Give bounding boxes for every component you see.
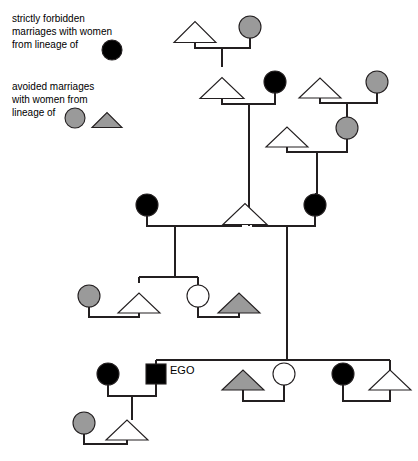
kin-node-triangle-g6-m3[interactable] xyxy=(369,370,411,390)
kin-node-circle-g3-f1[interactable] xyxy=(336,117,358,139)
labels-layer: EGO xyxy=(170,364,195,376)
kin-node-circle-g5-f2[interactable] xyxy=(187,285,209,307)
kin-node-triangle-g2-m1[interactable] xyxy=(200,78,244,99)
kin-node-triangle-g5-m1[interactable] xyxy=(118,293,160,313)
kin-node-triangle-g7-m1[interactable] xyxy=(106,420,148,440)
kin-node-circle-g2-f2[interactable] xyxy=(366,71,388,93)
kinship-diagram: strictly forbiddenmarriages with womenfr… xyxy=(0,0,418,461)
kin-node-circle-g6-f2[interactable] xyxy=(273,363,295,385)
kin-node-triangle-g2-m2[interactable] xyxy=(299,78,341,98)
kin-node-circle-g5-f1[interactable] xyxy=(78,285,100,307)
kinship-svg: strictly forbiddenmarriages with womenfr… xyxy=(0,0,418,461)
legend-symbol-avoided-1[interactable] xyxy=(92,113,122,128)
kin-node-triangle-g5-m2[interactable] xyxy=(218,293,260,313)
kin-node-circle-g2-f1[interactable] xyxy=(264,71,286,93)
kin-node-triangle-g1-m1[interactable] xyxy=(174,22,216,43)
kin-node-triangle-g6-m2[interactable] xyxy=(222,370,264,390)
kin-node-circle-g4-f2[interactable] xyxy=(304,194,326,216)
kin-node-square-g6-ego[interactable] xyxy=(146,364,166,384)
legend-symbol-avoided-0[interactable] xyxy=(65,108,85,128)
legend-layer: strictly forbiddenmarriages with womenfr… xyxy=(11,13,122,128)
kin-node-triangle-g4-m1[interactable] xyxy=(223,204,267,225)
kin-node-circle-g6-f1[interactable] xyxy=(97,363,119,385)
kin-node-circle-g1-f1[interactable] xyxy=(239,16,261,38)
ego-label: EGO xyxy=(170,364,195,376)
legend-symbol-strictly-forbidden-0[interactable] xyxy=(102,40,122,60)
legend-text-strictly-forbidden: strictly forbiddenmarriages with womenfr… xyxy=(12,13,112,50)
kin-link-marriage xyxy=(108,384,156,396)
kin-node-circle-g7-f1[interactable] xyxy=(73,412,95,434)
kinship-nodes-layer xyxy=(73,16,411,440)
kin-node-triangle-g3-m1[interactable] xyxy=(266,127,308,147)
kin-node-circle-g6-f3[interactable] xyxy=(332,363,354,385)
kin-node-circle-g4-f1[interactable] xyxy=(136,194,158,216)
